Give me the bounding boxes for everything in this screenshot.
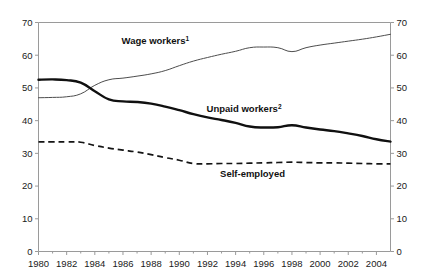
y-tick-label-right: 40: [397, 115, 408, 126]
plot-border: [39, 23, 391, 252]
y-axis-labels-left: 010203040506070: [22, 17, 33, 257]
x-tick-label: 2004: [366, 258, 387, 269]
y-tick-label-left: 60: [22, 50, 33, 61]
y-tick-label-right: 50: [397, 82, 408, 93]
y-tick-label-left: 20: [22, 180, 33, 191]
wage-workers-label: Wage workers1: [122, 35, 190, 46]
x-tick-label: 1988: [141, 258, 162, 269]
axis-frame: [39, 23, 391, 252]
data-series-layer: [39, 34, 391, 164]
line-chart: 010203040506070 010203040506070 19801982…: [0, 0, 430, 280]
x-tick-label: 1996: [253, 258, 274, 269]
x-tick-label: 1986: [112, 258, 133, 269]
x-tick-label: 2002: [338, 258, 359, 269]
series-line-self-employed: [39, 142, 391, 164]
series-annotations: Wage workers1Unpaid workers2Self-employe…: [122, 35, 286, 179]
y-axis-labels-right: 010203040506070: [397, 17, 408, 257]
y-tick-label-right: 60: [397, 50, 408, 61]
x-tick-label: 1980: [28, 258, 49, 269]
x-tick-label: 1998: [281, 258, 302, 269]
chart-container: 010203040506070 010203040506070 19801982…: [0, 0, 430, 280]
y-tick-label-right: 10: [397, 213, 408, 224]
y-tick-label-left: 10: [22, 213, 33, 224]
y-tick-label-left: 0: [27, 246, 32, 257]
x-tick-label: 1992: [197, 258, 218, 269]
y-tick-label-left: 30: [22, 148, 33, 159]
x-axis-labels: 1980198219841986198819901992199419961998…: [28, 258, 387, 269]
y-tick-label-left: 40: [22, 115, 33, 126]
x-tick-label: 1982: [56, 258, 77, 269]
y-tick-label-right: 0: [397, 246, 402, 257]
y-tick-label-right: 20: [397, 180, 408, 191]
y-axis-ticks-right: [391, 23, 395, 252]
x-axis-ticks: [39, 252, 377, 256]
y-tick-label-left: 70: [22, 17, 33, 28]
y-axis-ticks-left: [35, 23, 39, 252]
x-tick-label: 2000: [310, 258, 331, 269]
y-tick-label-right: 70: [397, 17, 408, 28]
y-tick-label-left: 50: [22, 82, 33, 93]
unpaid-workers-label: Unpaid workers2: [207, 103, 282, 114]
self-employed-label: Self-employed: [220, 168, 285, 179]
x-tick-label: 1984: [84, 258, 105, 269]
x-tick-label: 1990: [169, 258, 190, 269]
y-tick-label-right: 30: [397, 148, 408, 159]
x-tick-label: 1994: [225, 258, 246, 269]
